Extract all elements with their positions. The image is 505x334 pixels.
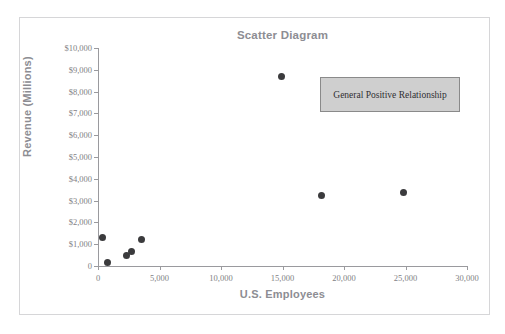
y-axis-tick-mark bbox=[94, 157, 98, 158]
y-axis-tick: $5,000 bbox=[98, 157, 99, 158]
annotation-callout: General Positive Relationship bbox=[320, 77, 460, 112]
x-axis-tick-label: 15,000 bbox=[271, 273, 294, 283]
scatter-point bbox=[400, 189, 407, 196]
y-axis-tick-label: $6,000 bbox=[69, 130, 92, 140]
y-axis-tick-label: $2,000 bbox=[69, 217, 92, 227]
x-axis-tick-mark bbox=[160, 266, 161, 270]
y-axis-tick-mark bbox=[94, 48, 98, 49]
y-axis-tick-label: $1,000 bbox=[69, 239, 92, 249]
y-axis-tick: $7,000 bbox=[98, 113, 99, 114]
x-axis-tick-mark bbox=[344, 266, 345, 270]
x-axis-tick: 5,000 bbox=[160, 266, 161, 267]
y-axis-tick-label: $10,000 bbox=[64, 43, 92, 53]
x-axis-tick-mark bbox=[283, 266, 284, 270]
scatter-point bbox=[104, 259, 111, 266]
y-axis-tick: $4,000 bbox=[98, 179, 99, 180]
y-axis-tick-label: 0 bbox=[88, 261, 92, 271]
y-axis-tick-label: $3,000 bbox=[69, 196, 92, 206]
scatter-point bbox=[128, 248, 135, 255]
x-axis-tick-mark bbox=[98, 266, 99, 270]
x-axis-tick-label: 30,000 bbox=[455, 273, 478, 283]
x-axis-tick: 25,000 bbox=[406, 266, 407, 267]
y-axis-tick: $6,000 bbox=[98, 135, 99, 136]
scatter-point bbox=[318, 192, 325, 199]
x-axis-tick-label: 10,000 bbox=[209, 273, 232, 283]
x-axis-tick-label: 25,000 bbox=[394, 273, 417, 283]
y-axis-tick: $8,000 bbox=[98, 92, 99, 93]
y-axis-tick: $3,000 bbox=[98, 201, 99, 202]
x-axis-tick-label: 0 bbox=[96, 273, 100, 283]
x-axis-tick: 30,000 bbox=[467, 266, 468, 267]
y-axis-tick-label: $7,000 bbox=[69, 108, 92, 118]
cropped-text-remnant bbox=[78, 0, 138, 8]
x-axis-tick-mark bbox=[467, 266, 468, 270]
y-axis-tick-mark bbox=[94, 70, 98, 71]
y-axis-tick-label: $4,000 bbox=[69, 174, 92, 184]
x-axis-tick: 15,000 bbox=[283, 266, 284, 267]
y-axis-tick: $1,000 bbox=[98, 244, 99, 245]
scatter-point bbox=[278, 73, 285, 80]
scatter-point bbox=[99, 234, 106, 241]
x-axis-tick: 20,000 bbox=[344, 266, 345, 267]
y-axis-tick-mark bbox=[94, 222, 98, 223]
y-axis-tick-mark bbox=[94, 179, 98, 180]
x-axis-tick: 0 bbox=[98, 266, 99, 267]
scatter-point bbox=[138, 236, 145, 243]
y-axis-tick-mark bbox=[94, 113, 98, 114]
y-axis-tick-mark bbox=[94, 135, 98, 136]
y-axis-tick: $9,000 bbox=[98, 70, 99, 71]
y-axis-tick-label: $5,000 bbox=[69, 152, 92, 162]
annotation-callout-label: General Positive Relationship bbox=[333, 90, 446, 100]
y-axis-tick-mark bbox=[94, 244, 98, 245]
y-axis-tick: $10,000 bbox=[98, 48, 99, 49]
x-axis-tick: 10,000 bbox=[221, 266, 222, 267]
y-axis-tick-mark bbox=[94, 201, 98, 202]
x-axis-tick-label: 5,000 bbox=[150, 273, 169, 283]
y-axis-tick-label: $9,000 bbox=[69, 65, 92, 75]
y-axis-title: Revenue (Millions) bbox=[21, 56, 33, 157]
y-axis-tick-mark bbox=[94, 92, 98, 93]
x-axis-tick-mark bbox=[406, 266, 407, 270]
chart-title: Scatter Diagram bbox=[98, 29, 467, 41]
x-axis-tick-mark bbox=[221, 266, 222, 270]
x-axis-tick-label: 20,000 bbox=[332, 273, 355, 283]
y-axis-tick-label: $8,000 bbox=[69, 87, 92, 97]
x-axis-title: U.S. Employees bbox=[98, 288, 467, 300]
y-axis-tick: $2,000 bbox=[98, 222, 99, 223]
